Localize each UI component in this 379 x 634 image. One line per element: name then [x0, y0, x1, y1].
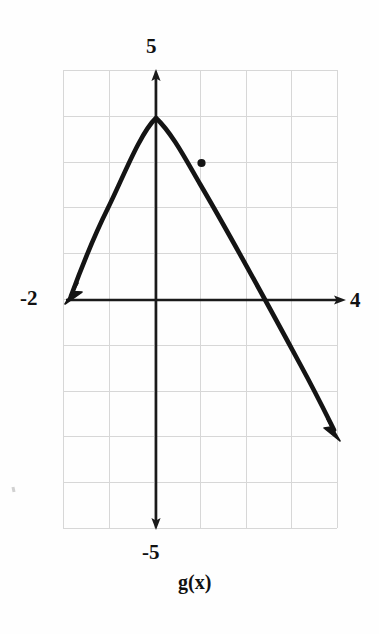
point-marker [197, 159, 205, 167]
graph-figure: 5 -2 4 -5 g(x) [0, 0, 379, 634]
function-curve-g [65, 118, 340, 441]
y-axis-max-label: 5 [146, 36, 157, 57]
coordinate-plane-svg [0, 0, 379, 634]
axes [66, 69, 346, 530]
function-name-caption: g(x) [178, 572, 211, 592]
x-axis-min-label: -2 [20, 288, 38, 309]
x-axis-max-label: 4 [350, 290, 361, 311]
y-axis-min-label: -5 [142, 542, 160, 563]
